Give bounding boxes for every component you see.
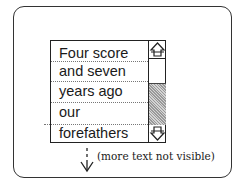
arrow-down-icon (149, 125, 166, 142)
scrolling-text-field[interactable]: Four score and seven years ago our foref… (50, 40, 166, 143)
scroll-track[interactable] (149, 58, 166, 124)
line-divider (51, 102, 148, 103)
dashed-down-arrow-icon (80, 147, 94, 173)
text-line: Four score (59, 45, 128, 61)
scroll-up-button[interactable] (149, 41, 166, 58)
vertical-scrollbar[interactable] (148, 41, 166, 142)
line-divider (51, 61, 148, 62)
text-line: our (59, 104, 80, 120)
text-line: years ago (59, 83, 123, 99)
text-line: and seven (59, 63, 126, 79)
text-line: forefathers (59, 125, 128, 141)
annotation-caption: (more text not visible) (97, 150, 215, 162)
scroll-down-button[interactable] (149, 125, 166, 142)
scroll-thumb[interactable] (149, 83, 166, 125)
line-divider (51, 81, 148, 82)
arrow-up-icon (149, 41, 166, 58)
